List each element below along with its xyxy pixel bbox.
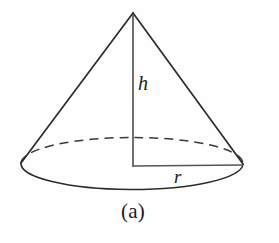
figure-caption: (a) — [121, 201, 145, 222]
cone-radius-line — [133, 165, 243, 166]
height-label: h — [138, 73, 148, 93]
radius-label: r — [174, 167, 181, 186]
base-back-arc — [21, 137, 243, 164]
cone-figure: h r (a) — [0, 0, 279, 243]
base-front-arc — [21, 163, 243, 190]
